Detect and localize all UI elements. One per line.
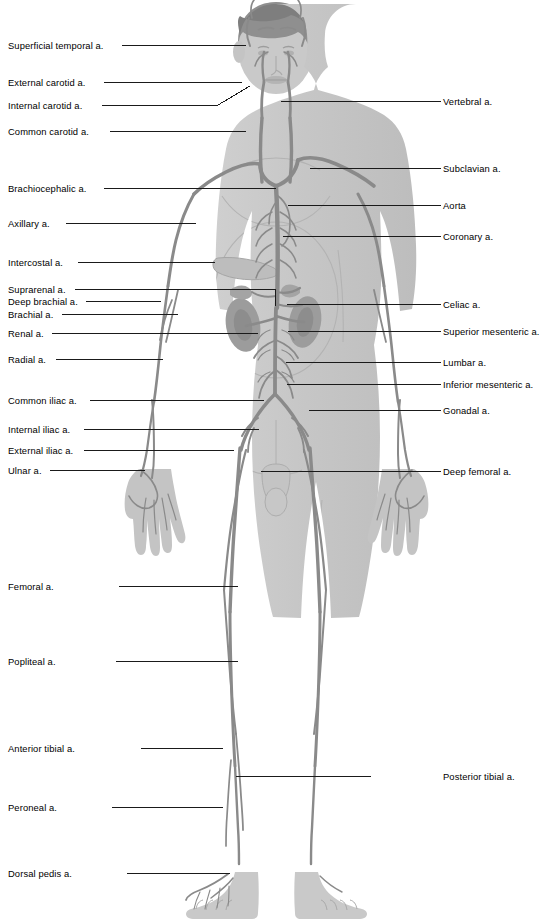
label-dorsal-pedis-a: Dorsal pedis a. — [8, 868, 72, 879]
label-deep-brachial-a: Deep brachial a. — [8, 296, 78, 307]
label-ulnar-a: Ulnar a. — [8, 465, 42, 476]
label-brachial-a: Brachial a. — [8, 309, 53, 320]
label-gonadal-a: Gonadal a. — [443, 405, 490, 416]
label-femoral-a: Femoral a. — [8, 581, 54, 592]
label-axillary-a: Axillary a. — [8, 218, 50, 229]
label-peroneal-a: Peroneal a. — [8, 802, 57, 813]
label-internal-iliac-a: Internal iliac a. — [8, 424, 70, 435]
label-external-carotid-a: External carotid a. — [8, 77, 85, 88]
label-celiac-a: Celiac a. — [443, 299, 480, 310]
label-renal-a: Renal a. — [8, 328, 44, 339]
label-coronary-a: Coronary a. — [443, 231, 493, 242]
label-superficial-temporal-a: Superficial temporal a. — [8, 40, 104, 51]
label-external-iliac-a: External iliac a. — [8, 445, 73, 456]
label-suprarenal-a: Suprarenal a. — [8, 284, 66, 295]
label-deep-femoral-a: Deep femoral a. — [443, 466, 511, 477]
label-brachiocephalic-a: Brachiocephalic a. — [8, 183, 86, 194]
label-vertebral-a: Vertebral a. — [443, 96, 492, 107]
label-common-carotid-a: Common carotid a. — [8, 126, 89, 137]
label-radial-a: Radial a. — [8, 354, 46, 365]
label-subclavian-a: Subclavian a. — [443, 163, 501, 174]
label-superior-mesenteric-a: Superior mesenteric a. — [443, 326, 540, 337]
label-lumbar-a: Lumbar a. — [443, 357, 486, 368]
label-internal-carotid-a: Internal carotid a. — [8, 100, 82, 111]
label-common-iliac-a: Common iliac a. — [8, 395, 77, 406]
label-posterior-tibial-a: Posterior tibial a. — [443, 771, 515, 782]
label-inferior-mesenteric-a: Inferior mesenteric a. — [443, 379, 533, 390]
label-popliteal-a: Popliteal a. — [8, 656, 56, 667]
body-silhouette — [125, 2, 429, 919]
arterial-system-diagram: Superficial temporal a.External carotid … — [0, 0, 553, 919]
label-intercostal-a: Intercostal a. — [8, 257, 63, 268]
label-anterior-tibial-a: Anterior tibial a. — [8, 743, 75, 754]
label-aorta: Aorta — [443, 200, 466, 211]
